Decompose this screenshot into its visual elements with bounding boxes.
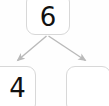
part-number-box-right[interactable] [66,66,109,106]
whole-number-value: 6 [40,4,57,30]
number-bond-diagram: 6 4 [0,0,109,106]
edge-whole-to-part-right [49,36,86,61]
part-number-box-left[interactable]: 4 [0,66,36,106]
edge-whole-to-part-left [18,36,47,61]
part-number-value-left: 4 [9,75,26,101]
whole-number-box[interactable]: 6 [26,0,70,35]
